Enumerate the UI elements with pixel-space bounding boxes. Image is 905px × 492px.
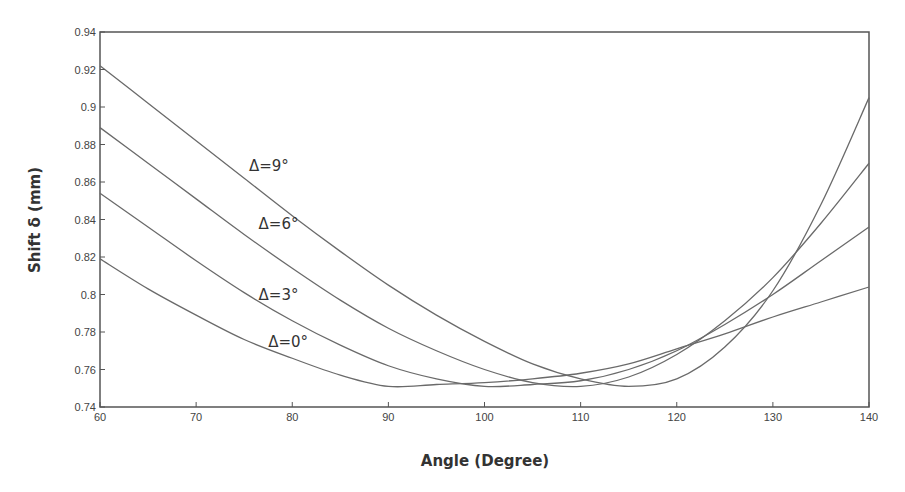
y-tick-label: 0.76 [75,364,96,376]
y-tick-label: 0.8 [81,289,96,301]
curve-label-1: Δ=6° [259,215,299,233]
line-chart: 60708090100110120130140 0.740.760.780.80… [0,0,905,492]
y-tick-label: 0.84 [75,214,96,226]
plot-frame [100,32,869,407]
curve-label-3: Δ=0° [268,333,308,351]
x-tick-label: 110 [572,411,590,423]
curve-labels: Δ=9°Δ=6°Δ=3°Δ=0° [249,157,308,351]
x-tick-label: 70 [190,411,202,423]
series-line-2 [100,128,869,387]
x-axis-title: Angle (Degree) [421,452,549,470]
y-tick-label: 0.82 [75,251,96,263]
x-tick-label: 90 [382,411,394,423]
series-line-1 [100,193,869,386]
series-line-0 [100,259,869,387]
x-tick-label: 80 [286,411,298,423]
y-tick-label: 0.92 [75,64,96,76]
curves [100,66,869,387]
x-tick-label: 120 [668,411,686,423]
y-axis-title: Shift δ (mm) [26,167,44,273]
y-tick-label: 0.9 [81,101,96,113]
plot-border [100,32,869,407]
curve-label-0: Δ=9° [249,157,289,175]
curve-label-2: Δ=3° [259,286,299,304]
x-tick-label: 140 [860,411,878,423]
y-tick-label: 0.78 [75,326,96,338]
y-tick-label: 0.88 [75,139,96,151]
x-tick-label: 100 [475,411,493,423]
y-tick-label: 0.86 [75,176,96,188]
x-tick-label: 130 [764,411,782,423]
series-line-3 [100,66,869,387]
y-tick-label: 0.74 [75,401,96,413]
y-tick-label: 0.94 [75,26,96,38]
x-axis-ticks: 60708090100110120130140 [94,402,878,423]
